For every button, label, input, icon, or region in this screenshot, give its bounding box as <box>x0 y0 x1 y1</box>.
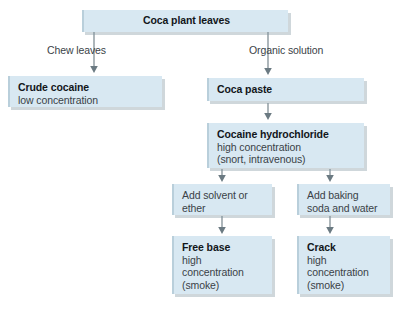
node-add-solvent-line2: ether <box>182 202 265 215</box>
node-free-base-subtitle-line3: (smoke) <box>182 279 265 292</box>
node-coca-plant-leaves-title: Coca plant leaves <box>92 14 281 27</box>
node-crude-cocaine[interactable]: Crude cocaine low concentration <box>8 76 162 107</box>
node-add-solvent-or-ether[interactable]: Add solvent or ether <box>172 184 272 215</box>
node-crack-subtitle-line1: high <box>307 254 383 267</box>
node-add-solvent-line1: Add solvent or <box>182 189 265 202</box>
node-cocaine-hydrochloride-subtitle-line2: (snort, intravenous) <box>217 153 357 166</box>
edge-label-organic-solution-text: Organic solution <box>249 44 323 56</box>
node-crack-subtitle-line3: (smoke) <box>307 279 383 292</box>
connector-paste-to-hydrochloride <box>264 103 272 120</box>
node-add-baking-soda-line1: Add baking <box>307 189 383 202</box>
node-crude-cocaine-subtitle: low concentration <box>18 94 155 107</box>
node-cocaine-hydrochloride[interactable]: Cocaine hydrochloride high concentration… <box>207 123 364 168</box>
connector-solvent-to-free-base <box>218 216 226 234</box>
node-cocaine-hydrochloride-title: Cocaine hydrochloride <box>217 128 357 141</box>
node-add-baking-soda-line2: soda and water <box>307 202 383 215</box>
connector-hydrochloride-to-solvent <box>218 169 226 182</box>
edge-label-organic-solution: Organic solution <box>249 44 323 56</box>
node-coca-plant-leaves[interactable]: Coca plant leaves <box>82 10 288 32</box>
edge-label-chew-leaves-text: Chew leaves <box>47 44 106 56</box>
connector-baking-soda-to-crack <box>326 216 334 234</box>
node-free-base[interactable]: Free base high concentration (smoke) <box>172 236 272 294</box>
node-free-base-title: Free base <box>182 241 265 254</box>
node-crack-title: Crack <box>307 241 383 254</box>
node-free-base-subtitle-line1: high <box>182 254 265 267</box>
connector-hydrochloride-to-baking-soda <box>326 169 334 182</box>
flowchart-diagram: Coca plant leaves Chew leaves Organic so… <box>0 0 400 313</box>
node-crack[interactable]: Crack high concentration (smoke) <box>297 236 390 294</box>
node-coca-paste[interactable]: Coca paste <box>207 78 364 101</box>
node-crude-cocaine-title: Crude cocaine <box>18 81 155 94</box>
node-cocaine-hydrochloride-subtitle-line1: high concentration <box>217 141 357 154</box>
node-crack-subtitle-line2: concentration <box>307 266 383 279</box>
node-coca-paste-title: Coca paste <box>217 83 357 96</box>
edge-label-chew-leaves: Chew leaves <box>47 44 106 56</box>
node-add-baking-soda-and-water[interactable]: Add baking soda and water <box>297 184 390 215</box>
node-free-base-subtitle-line2: concentration <box>182 266 265 279</box>
